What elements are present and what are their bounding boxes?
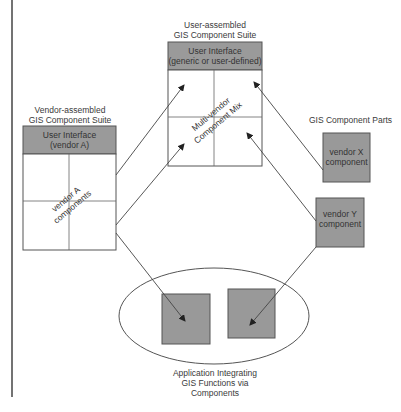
component-parts-title: GIS Component Parts <box>300 115 401 125</box>
arrow-vendor-y-to-application <box>250 247 316 325</box>
vendor-suite-header-line2: (vendor A) <box>50 140 89 150</box>
application-caption: Application Integrating GIS Functions vi… <box>160 368 270 398</box>
user-suite-title: User-assembled GIS Component Suite <box>162 20 268 40</box>
application-caption-line3: Components <box>160 388 270 398</box>
vendor-y-line2: component <box>319 219 362 229</box>
app-component-slot-right <box>228 289 275 338</box>
user-suite-title-line2: GIS Component Suite <box>162 30 268 40</box>
vendor-y-component: vendor Y component <box>316 198 364 247</box>
user-suite-header-line1: User Interface <box>188 46 242 56</box>
arrow-vendor-suite-to-application <box>116 233 185 321</box>
user-suite-title-line1: User-assembled <box>162 20 268 30</box>
vendor-y-line1: vendor Y <box>323 209 357 219</box>
vendor-suite-title-line2: GIS Component Suite <box>18 115 122 125</box>
vendor-x-line2: component <box>325 157 368 167</box>
arrow-vendor-y-to-user-suite <box>247 133 316 221</box>
application-caption-line1: Application Integrating <box>160 368 270 378</box>
vendor-x-component: vendor X component <box>323 133 370 182</box>
vendor-suite-title: Vendor-assembled GIS Component Suite <box>18 105 122 125</box>
application-caption-line2: GIS Functions via <box>160 378 270 388</box>
user-suite-box: User Interface (generic or user-defined)… <box>168 42 262 166</box>
user-suite-header-line2: (generic or user-defined) <box>168 56 261 66</box>
arrow-vendor-x-to-user-suite <box>254 82 323 170</box>
arrow-vendor-suite-to-user-suite-bottom <box>116 144 184 225</box>
vendor-x-line1: vendor X <box>329 147 363 157</box>
vendor-suite-box: User Interface (vendor A) vendor A compo… <box>23 126 116 250</box>
vendor-suite-title-line1: Vendor-assembled <box>18 105 122 115</box>
vendor-suite-header-line1: User Interface <box>43 130 97 140</box>
application-ellipse <box>119 268 309 364</box>
diagram-canvas: User Interface (vendor A) vendor A compo… <box>0 0 401 412</box>
component-parts-title-text: GIS Component Parts <box>300 115 401 125</box>
